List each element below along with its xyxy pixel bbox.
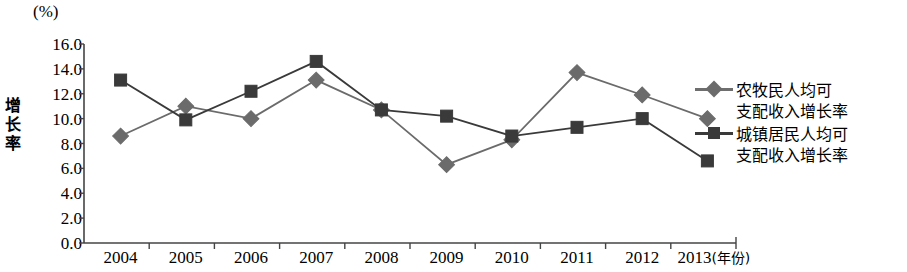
data-point-rural xyxy=(699,111,715,127)
legend-label-urban-line2: 支配收入增长率 xyxy=(736,145,848,166)
data-point-urban xyxy=(115,74,127,86)
data-point-rural xyxy=(178,98,194,114)
data-point-rural xyxy=(308,72,324,88)
series-line-rural xyxy=(121,73,708,165)
legend-label-rural-line2: 支配收入增长率 xyxy=(736,101,848,122)
data-point-urban xyxy=(310,55,322,67)
data-point-urban xyxy=(701,155,713,167)
growth-rate-line-chart: (%) 增长率 16.014.012.010.08.06.04.02.00.0 … xyxy=(0,0,907,272)
legend-label-rural-line1: 农牧民人均可 xyxy=(736,80,848,101)
data-point-urban xyxy=(571,121,583,133)
data-point-urban xyxy=(506,130,518,142)
data-point-rural xyxy=(243,111,259,127)
data-point-rural xyxy=(113,128,129,144)
legend-entry-rural: 农牧民人均可 支配收入增长率 xyxy=(736,80,848,122)
legend-marker-square-icon xyxy=(695,132,733,135)
data-point-urban xyxy=(245,85,257,97)
data-point-urban xyxy=(375,104,387,116)
data-point-urban xyxy=(441,110,453,122)
data-point-urban xyxy=(180,114,192,126)
data-point-rural xyxy=(634,87,650,103)
legend-entry-urban: 城镇居民人均可 支配收入增长率 xyxy=(736,124,848,166)
legend-label-urban-line1: 城镇居民人均可 xyxy=(736,124,848,145)
legend-marker-diamond-icon xyxy=(695,88,733,91)
data-point-urban xyxy=(636,113,648,125)
